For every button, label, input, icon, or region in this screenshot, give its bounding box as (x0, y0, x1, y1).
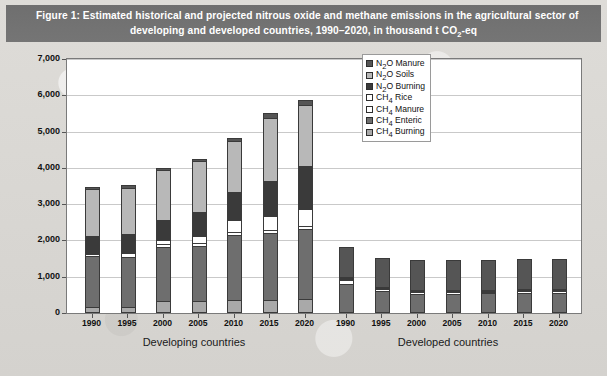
bar-segment (264, 300, 277, 312)
legend-item[interactable]: N2O Manure (366, 58, 425, 69)
x-axis-tick-label: 1995 (107, 318, 147, 328)
x-axis-tick-mark (305, 314, 306, 318)
bar-segment (376, 259, 389, 287)
bar-segment (193, 246, 206, 300)
stacked-bar[interactable] (375, 258, 390, 313)
legend-item-label: N2O Burning (376, 81, 425, 92)
bar-segment (193, 301, 206, 312)
stacked-bar[interactable] (410, 260, 425, 313)
stacked-bar[interactable] (446, 260, 461, 313)
bar-segment (193, 212, 206, 235)
stacked-bar[interactable] (298, 100, 313, 313)
y-axis-tick-label: 6,000 (8, 89, 60, 99)
figure-title-line-2-text-b: -eq (461, 25, 477, 36)
x-axis-tick-label: 1990 (326, 318, 366, 328)
legend-swatch (366, 117, 373, 124)
stacked-bar[interactable] (192, 159, 207, 313)
x-axis-tick-mark (488, 314, 489, 318)
y-axis-tick-mark (62, 95, 66, 96)
legend-item[interactable]: CH4 Manure (366, 104, 425, 115)
stacked-bar[interactable] (517, 259, 532, 313)
stacked-bar[interactable] (339, 247, 354, 313)
x-axis-tick-mark (381, 314, 382, 318)
x-axis-tick-mark (92, 314, 93, 318)
x-axis-tick-label: 2005 (432, 318, 472, 328)
legend-item-label: N2O Soils (376, 69, 414, 80)
y-axis-tick-label: 0 (8, 307, 60, 317)
bar-segment (553, 293, 566, 312)
x-axis-tick-mark (417, 314, 418, 318)
stacked-bar[interactable] (85, 187, 100, 313)
y-axis-tick-mark (62, 168, 66, 169)
bar-segment (299, 166, 312, 209)
figure-title: Figure 1: Estimated historical and proje… (6, 5, 601, 42)
x-axis-tick-mark (523, 314, 524, 318)
x-axis-tick-label: 2000 (143, 318, 183, 328)
y-axis-tick-label: 3,000 (8, 198, 60, 208)
legend-item[interactable]: CH4 Enteric (366, 115, 425, 126)
bar-segment (264, 118, 277, 181)
bar-segment (482, 293, 495, 312)
bar-segment (157, 220, 170, 240)
bar-segment (193, 161, 206, 212)
y-axis-tick-mark (62, 277, 66, 278)
legend-swatch (366, 94, 373, 101)
y-axis-tick-label: 4,000 (8, 162, 60, 172)
legend-item[interactable]: CH4 Rice (366, 92, 425, 103)
bar-segment (299, 105, 312, 165)
bar-segment (518, 293, 531, 312)
group-axis-label: Developing countries (84, 336, 304, 348)
stacked-bar[interactable] (263, 113, 278, 313)
y-axis-tick-mark (62, 59, 66, 60)
stacked-bar[interactable] (121, 185, 136, 313)
bar-segment (264, 216, 277, 230)
y-axis-tick-mark (62, 204, 66, 205)
legend-item[interactable]: N2O Soils (366, 69, 425, 80)
x-axis-tick-mark (269, 314, 270, 318)
y-axis-tick-label: 5,000 (8, 126, 60, 136)
bar-segment (447, 294, 460, 312)
bar-segment (228, 300, 241, 312)
x-axis-tick-label: 1990 (72, 318, 112, 328)
gridline (67, 277, 581, 278)
bar-segment (157, 170, 170, 219)
legend-item[interactable]: CH4 Burning (366, 126, 425, 137)
legend-item[interactable]: N2O Burning (366, 81, 425, 92)
y-axis-tick-mark (62, 240, 66, 241)
bar-segment (86, 236, 99, 254)
stacked-bar[interactable] (156, 168, 171, 313)
bar-segment (299, 209, 312, 226)
bar-segment (86, 189, 99, 236)
bar-segment (193, 236, 206, 243)
x-axis-tick-label: 2015 (249, 318, 289, 328)
legend-item-label: CH4 Enteric (376, 115, 422, 126)
x-axis-tick-label: 2000 (397, 318, 437, 328)
x-axis-tick-label: 2020 (285, 318, 325, 328)
x-axis-tick-label: 2010 (214, 318, 254, 328)
x-axis-tick-mark (234, 314, 235, 318)
stacked-bar[interactable] (552, 259, 567, 313)
stacked-bar[interactable] (227, 138, 242, 313)
bar-segment (86, 256, 99, 307)
x-axis-tick-label: 1995 (361, 318, 401, 328)
bar-segment (340, 284, 353, 312)
gridline (67, 240, 581, 241)
bar-segment (122, 257, 135, 308)
stacked-bar[interactable] (481, 260, 496, 313)
bar-segment (86, 307, 99, 312)
gridline (67, 132, 581, 133)
x-axis-tick-label: 2005 (178, 318, 218, 328)
legend-swatch (366, 72, 373, 79)
bar-segment (228, 220, 241, 232)
legend-swatch (366, 60, 373, 67)
legend-swatch (366, 106, 373, 113)
gridline (67, 204, 581, 205)
bar-segment (264, 233, 277, 300)
bar-segment (340, 248, 353, 278)
bar-segment (299, 229, 312, 299)
legend-item-label: CH4 Burning (376, 126, 425, 137)
figure-title-line-2-text-a: developing and developed countries, 1990… (130, 25, 457, 36)
plot-frame (66, 58, 582, 314)
group-axis-label: Developed countries (338, 336, 558, 348)
bar-segment (157, 301, 170, 312)
